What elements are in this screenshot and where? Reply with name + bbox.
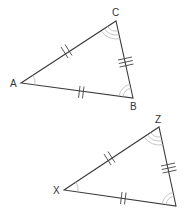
angle-x-arc <box>76 182 78 192</box>
angle-y-arcs <box>162 192 174 204</box>
vertex-label-b: B <box>130 101 137 112</box>
triangle-abc: A B C <box>10 7 137 112</box>
side-ab-tick-marks <box>79 86 85 99</box>
congruent-triangles-diagram: A B C <box>0 0 186 208</box>
side-zy-tick-marks <box>161 163 177 173</box>
angle-z-arcs <box>144 133 163 145</box>
vertex-label-a: A <box>10 78 17 89</box>
triangle-abc-outline <box>21 21 133 98</box>
vertex-label-x: X <box>53 185 60 196</box>
angle-a-arc <box>33 75 35 85</box>
triangle-xyz-outline <box>64 127 176 206</box>
side-cb-tick-marks <box>118 57 134 67</box>
vertex-label-z: Z <box>155 114 161 125</box>
vertex-label-c: C <box>112 7 119 18</box>
angle-b-arcs <box>119 84 131 96</box>
triangle-xyz: X Z <box>53 114 177 206</box>
